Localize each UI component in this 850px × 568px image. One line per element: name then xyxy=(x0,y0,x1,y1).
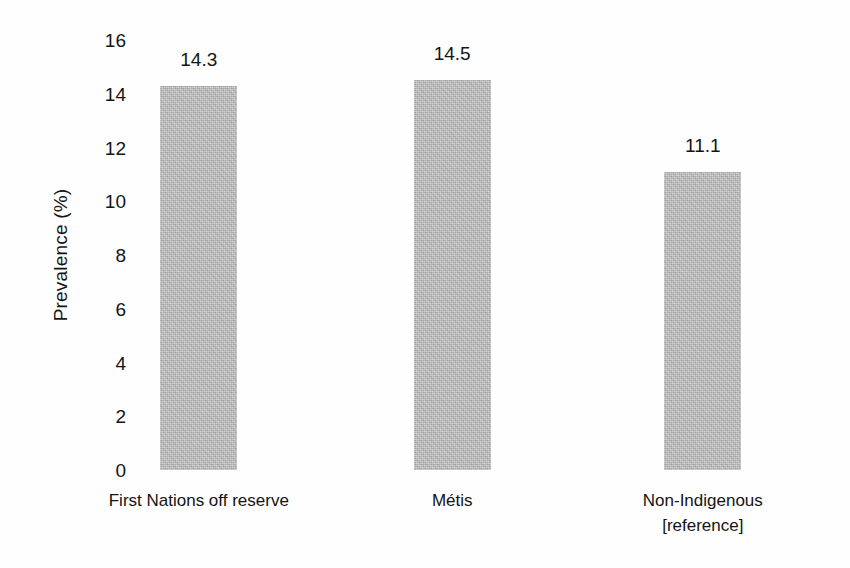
x-axis-category-label: First Nations off reserve xyxy=(109,488,289,513)
y-axis-tick-labels: 1614121086420 xyxy=(78,0,126,568)
bar-group[interactable]: 14.3 xyxy=(160,30,237,480)
y-axis-tick-12: 12 xyxy=(78,138,126,157)
bar-value-label: 14.3 xyxy=(180,50,217,69)
category-label-line: First Nations off reserve xyxy=(109,491,289,510)
y-axis-tick-8: 8 xyxy=(78,246,126,265)
bar-value-label: 14.5 xyxy=(434,44,471,63)
y-axis-tick-16: 16 xyxy=(78,31,126,50)
bar-value-label: 11.1 xyxy=(685,136,721,155)
x-axis-category-label: Non-Indigenous[reference] xyxy=(643,488,763,538)
category-label-line: Non-Indigenous xyxy=(643,491,763,510)
bar-chart-figure: Prevalence (%) 1614121086420 14.314.511.… xyxy=(0,0,850,568)
bar-group[interactable]: 11.1 xyxy=(664,30,741,480)
y-axis-title: Prevalence (%) xyxy=(44,40,78,470)
bar[interactable] xyxy=(160,86,237,470)
y-axis-tick-2: 2 xyxy=(78,407,126,426)
bar[interactable] xyxy=(414,80,491,470)
y-axis-tick-4: 4 xyxy=(78,353,126,372)
y-axis-tick-0: 0 xyxy=(78,461,126,480)
y-axis-tick-14: 14 xyxy=(78,84,126,103)
x-axis-category-label: Métis xyxy=(432,488,473,513)
bar[interactable] xyxy=(664,172,741,470)
bar-group[interactable]: 14.5 xyxy=(414,30,491,480)
y-axis-tick-6: 6 xyxy=(78,299,126,318)
category-label-line: [reference] xyxy=(643,513,763,538)
y-axis-tick-10: 10 xyxy=(78,192,126,211)
category-label-line: Métis xyxy=(432,491,473,510)
x-axis-category-labels: First Nations off reserveMétisNon-Indige… xyxy=(140,488,840,558)
plot-area: 14.314.511.1 xyxy=(140,30,840,480)
